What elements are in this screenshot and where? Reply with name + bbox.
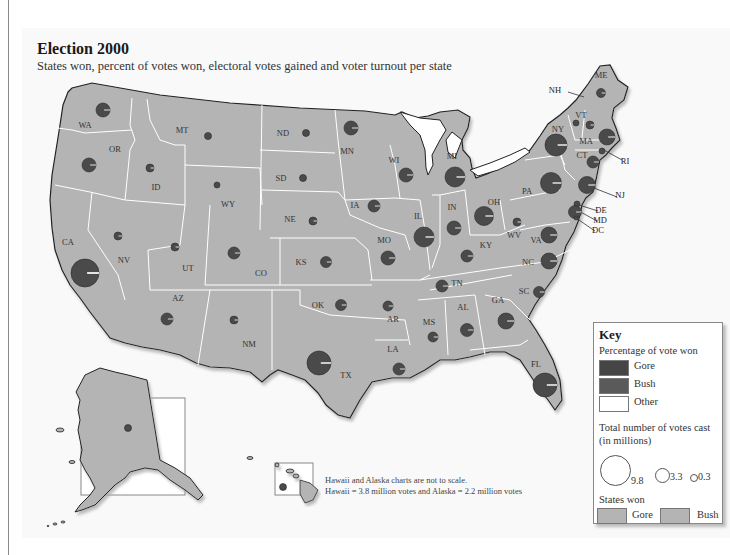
label-ca: CA (62, 237, 75, 247)
pie-ma (599, 129, 615, 145)
label-va: VA (530, 235, 542, 245)
pie-mi (445, 167, 465, 187)
pie-nh (586, 121, 594, 129)
key-votes-heading-2: (in millions) (599, 435, 651, 446)
label-or: OR (109, 144, 121, 154)
label-nv: NV (118, 255, 131, 265)
swatch-won-bush-label: Bush (697, 509, 719, 520)
swatch-bush (599, 378, 629, 394)
label-az: AZ (172, 293, 183, 303)
pie-ks (321, 257, 332, 268)
label-sc: SC (519, 286, 530, 296)
pie-mo (381, 251, 395, 265)
pie-sc (534, 287, 545, 298)
pie-nj (579, 177, 596, 194)
label-ia: IA (351, 200, 361, 210)
legend-key: Key Percentage of vote won Gore Bush Oth… (593, 322, 723, 524)
inset-note-line-2: Hawaii = 3.8 million votes and Alaska = … (325, 486, 522, 497)
label-me: ME (595, 70, 608, 80)
pie-ms (428, 332, 438, 342)
pie-ny (545, 134, 567, 156)
pie-in (447, 221, 461, 235)
label-nc: NC (522, 257, 534, 267)
pie-wv (513, 218, 521, 226)
pie-fl (533, 373, 557, 397)
label-nh: NH (549, 85, 561, 95)
pie-ri (599, 148, 605, 154)
label-wa: WA (78, 120, 92, 130)
pie-co (228, 247, 240, 259)
pie-oh (475, 207, 494, 226)
label-mo: MO (377, 235, 391, 245)
label-ct: CT (577, 150, 589, 160)
pie-ia (368, 200, 380, 212)
pie-wi (399, 168, 413, 182)
label-nj: NJ (615, 190, 625, 200)
circle-size-medium (655, 468, 670, 483)
label-fl: FL (531, 359, 541, 369)
swatch-won-gore (597, 508, 627, 524)
swatch-gore (599, 360, 629, 376)
swatch-won-gore-label: Gore (632, 509, 653, 520)
label-mn: MN (340, 146, 354, 156)
label-ms: MS (423, 317, 436, 327)
label-wv: WV (507, 230, 522, 240)
label-ut: UT (182, 263, 194, 273)
label-co: CO (255, 268, 267, 278)
pie-pa (541, 173, 562, 194)
circle-size-large (600, 455, 631, 486)
pie-ut (171, 243, 179, 251)
pie-wa (96, 103, 110, 117)
circle-size-small-label: 0.3 (698, 471, 711, 482)
label-ks: KS (296, 257, 307, 267)
label-tx: TX (340, 370, 351, 380)
swatch-other-label: Other (634, 396, 658, 407)
label-ga: GA (492, 295, 505, 305)
pie-ga (498, 313, 514, 329)
label-nd: ND (277, 128, 289, 138)
pie-tn (436, 280, 448, 292)
pie-vt (573, 120, 579, 126)
label-ok: OK (312, 300, 325, 310)
label-wy: WY (221, 199, 235, 209)
label-nm: NM (242, 339, 256, 349)
pie-sd (300, 175, 307, 182)
label-oh: OH (488, 197, 500, 207)
label-dc: DC (592, 225, 604, 235)
pie-ky (461, 250, 473, 262)
inset-note-line-1: Hawaii and Alaska charts are not to scal… (325, 475, 522, 486)
label-de: DE (595, 205, 606, 215)
label-il: IL (414, 211, 422, 221)
pie-la (393, 363, 405, 375)
swatch-gore-label: Gore (634, 360, 655, 371)
swatch-bush-label: Bush (634, 378, 656, 389)
label-md: MD (593, 215, 607, 225)
circle-size-medium-label: 3.3 (670, 471, 683, 482)
swatch-won-bush (660, 508, 690, 524)
pie-me (597, 89, 606, 98)
pie-id (146, 164, 154, 172)
pie-ct (587, 156, 599, 168)
label-mt: MT (176, 125, 190, 135)
label-ky: KY (480, 240, 492, 250)
label-id: ID (152, 182, 161, 192)
pie-nd (303, 130, 310, 137)
label-ny: NY (552, 124, 564, 134)
pie-ok (336, 300, 347, 311)
circle-size-large-label: 9.8 (631, 475, 644, 486)
pie-ne (309, 217, 317, 225)
circle-size-small (690, 474, 698, 482)
label-pa: PA (522, 186, 533, 196)
label-ne: NE (284, 214, 295, 224)
key-won-heading: States won (599, 494, 645, 505)
label-ar: AR (387, 314, 399, 324)
pie-nv (114, 232, 122, 240)
label-sd: SD (276, 173, 287, 183)
label-wi: WI (389, 155, 400, 165)
pie-il (414, 227, 434, 247)
pie-or (82, 158, 96, 172)
key-title: Key (599, 327, 621, 343)
pie-tx (307, 351, 331, 375)
key-pct-heading: Percentage of vote won (599, 345, 698, 356)
label-ri: RI (621, 156, 630, 166)
